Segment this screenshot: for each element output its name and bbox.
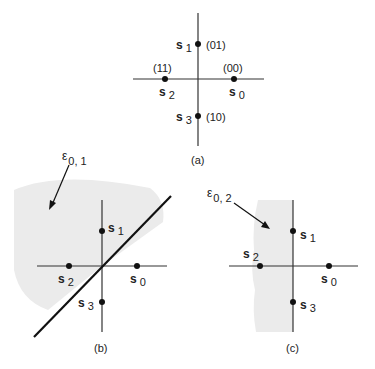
code-s2: (11): [153, 62, 172, 74]
panel-c: s1 s2 s0 s3 ε0, 2 (c): [207, 186, 358, 354]
point-s3: [99, 299, 105, 305]
point-s1: [99, 228, 105, 234]
decision-region-e01: [14, 179, 163, 310]
region-label-e01: ε0, 1: [62, 149, 87, 167]
caption-c: (c): [286, 342, 299, 354]
point-s3: [195, 113, 201, 119]
point-s0: [326, 263, 332, 269]
code-s1: (01): [206, 39, 226, 51]
panel-b: s1 s2 s0 s3 ε0, 1 (b): [14, 149, 171, 354]
point-s0: [231, 76, 237, 82]
label-s2: s2: [159, 85, 175, 101]
point-s1: [195, 41, 201, 47]
panel-a: s1 (01) (11) s2 (00) s0 s3 (10) (a): [133, 13, 264, 166]
point-s3: [290, 299, 296, 305]
point-s0: [134, 263, 140, 269]
point-s2: [66, 263, 72, 269]
label-s3: s3: [78, 296, 94, 312]
caption-b: (b): [94, 342, 107, 354]
label-s1: s1: [300, 228, 316, 244]
label-s3: s3: [176, 110, 192, 126]
label-s1: s1: [176, 38, 192, 54]
point-s1: [290, 228, 296, 234]
code-s3: (10): [206, 111, 226, 123]
code-s0: (00): [223, 62, 243, 74]
label-s0: s0: [130, 272, 146, 288]
label-s3: s3: [300, 298, 316, 314]
region-label-e02: ε0, 2: [207, 186, 232, 204]
label-s0: s0: [321, 272, 337, 288]
caption-a: (a): [191, 154, 204, 166]
point-s2: [257, 263, 263, 269]
constellation-figure: s1 (01) (11) s2 (00) s0 s3 (10) (a) s1 s…: [0, 0, 375, 369]
label-s0: s0: [229, 85, 245, 101]
point-s2: [162, 76, 168, 82]
